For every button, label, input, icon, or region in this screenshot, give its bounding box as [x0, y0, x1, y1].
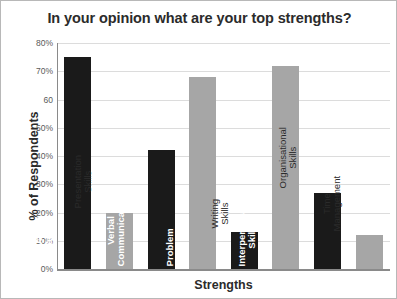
y-tick-label: 70%	[7, 66, 53, 76]
plot-area: 80%70%6050%40%30%20%10%0% Innovative/Cre…	[57, 43, 390, 269]
bar-category-label: TimeManagement	[369, 212, 397, 231]
bar-label-line: Management	[331, 176, 342, 231]
bar[interactable]	[189, 77, 216, 269]
bar-group[interactable]: OrganisationalSkills	[314, 43, 341, 269]
y-tick-label: 60	[7, 95, 53, 105]
bar-label-line: Communication	[114, 194, 125, 266]
x-axis-title: Strengths	[57, 278, 390, 292]
y-tick-label: 50%	[7, 123, 53, 133]
bar-label-line: Creative	[42, 222, 53, 260]
bar-label-line: Skills	[219, 203, 230, 225]
bar-label-line: Skills	[82, 171, 93, 193]
bar-label-line: Solving	[173, 230, 184, 264]
y-tick-label: 80%	[7, 38, 53, 48]
y-tick-label: 40%	[7, 151, 53, 161]
y-axis-line	[57, 43, 58, 270]
x-axis-line	[57, 269, 390, 271]
bar-group[interactable]: ProblemSolving	[189, 43, 216, 269]
y-tick-label: 30%	[7, 179, 53, 189]
chart-title: In your opinion what are your top streng…	[1, 10, 397, 26]
bar[interactable]	[356, 235, 383, 269]
bar-label-line: Skills	[286, 147, 297, 169]
bar-group[interactable]: TimeManagement	[356, 43, 383, 269]
chart-container: In your opinion what are your top streng…	[0, 0, 397, 299]
bar-label-line: Skills	[245, 224, 256, 249]
